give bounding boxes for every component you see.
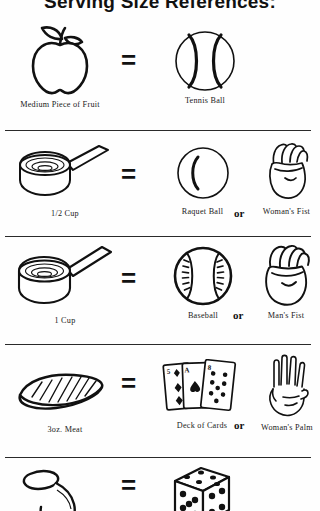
row-one-cup-alt-label: Man's Fist — [252, 311, 320, 320]
row-meat-operator: = — [121, 370, 136, 396]
row-half-cup-right: Raquet Ball — [155, 145, 250, 216]
row-half-cup-left-label: 1/2 Cup — [0, 209, 130, 218]
row-one-cup-left: 1 Cup — [0, 245, 130, 325]
row-meat-conjunction: or — [234, 419, 244, 431]
row-spoon: = — [0, 458, 320, 511]
row-spoon-right — [155, 464, 255, 511]
row-fruit-left: Medium Piece of Fruit — [0, 22, 120, 109]
row-half-cup: 1/2 Cup = Raquet Ball or — [0, 131, 320, 236]
row-one-cup-conjunction: or — [233, 309, 243, 321]
measuring-cup-icon — [11, 141, 119, 203]
row-half-cup-alt-label: Woman's Fist — [253, 207, 320, 216]
tennis-ball-icon — [172, 28, 238, 94]
row-one-cup-alt: Man's Fist — [252, 239, 320, 320]
mans-fist-icon — [258, 239, 314, 309]
row-one-cup-operator: = — [121, 265, 136, 291]
row-half-cup-left: 1/2 Cup — [0, 141, 130, 218]
svg-text:A: A — [184, 366, 189, 374]
deck-of-cards-icon: 5 A 8 — [159, 359, 245, 415]
row-fruit: Medium Piece of Fruit = Tennis Ball — [0, 0, 320, 130]
row-meat-alt: Woman's Palm — [254, 353, 320, 432]
row-meat-alt-label: Woman's Palm — [254, 423, 320, 432]
steak-meat-icon — [12, 367, 118, 415]
row-spoon-left — [0, 466, 130, 511]
womans-fist-icon — [262, 137, 312, 203]
row-fruit-right: Tennis Ball — [150, 28, 260, 105]
row-one-cup-left-label: 1 Cup — [0, 316, 130, 325]
row-fruit-left-label: Medium Piece of Fruit — [0, 100, 120, 109]
row-half-cup-conjunction: or — [234, 207, 244, 219]
apple-icon — [21, 22, 99, 98]
row-one-cup: 1 Cup = Baseball or — [0, 237, 320, 344]
row-meat: 3oz. Meat = 5 A — [0, 345, 320, 457]
baseball-icon — [172, 245, 234, 307]
row-half-cup-alt: Woman's Fist — [253, 137, 320, 216]
measuring-cup-icon — [9, 245, 121, 311]
serving-size-reference-chart: Serving Size References: Medium Piece of… — [0, 0, 320, 511]
measuring-spoon-icon — [10, 466, 120, 511]
row-meat-left-label: 3oz. Meat — [0, 425, 130, 434]
racquet-ball-icon — [175, 145, 231, 201]
row-meat-left: 3oz. Meat — [0, 367, 130, 434]
die-icon — [167, 464, 243, 511]
row-fruit-right-label: Tennis Ball — [150, 96, 260, 105]
row-spoon-operator: = — [121, 472, 136, 498]
row-half-cup-operator: = — [121, 161, 136, 187]
row-fruit-operator: = — [121, 47, 136, 73]
womans-palm-icon — [261, 353, 313, 419]
